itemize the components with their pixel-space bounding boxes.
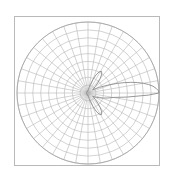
figure-container [0,0,173,181]
polar-grid-spokes [17,22,159,164]
polar-plot [0,0,173,181]
